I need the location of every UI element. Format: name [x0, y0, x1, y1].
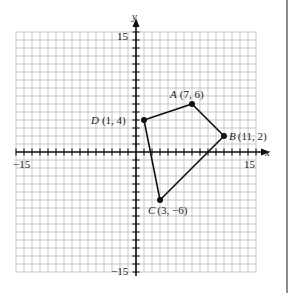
point-a-label: A(7, 6): [169, 88, 204, 101]
point-b-label: B(11, 2): [229, 130, 267, 143]
y-min-tick-label: −15: [111, 265, 129, 277]
point-d-dot: [141, 117, 147, 123]
coordinate-plane: y x 15 −15 −15 15 A(7, 6) B(11, 2) C(3, …: [0, 0, 290, 293]
point-b-dot: [221, 133, 227, 139]
point-d-label: D(1, 4): [90, 114, 126, 127]
x-max-tick-label: 15: [244, 158, 256, 170]
x-axis-label: x: [264, 146, 270, 158]
point-c-dot: [157, 197, 163, 203]
x-min-tick-label: −15: [13, 158, 31, 170]
point-c-label: C(3, −6): [148, 204, 188, 217]
y-max-tick-label: 15: [117, 30, 129, 42]
labels: y x 15 −15 −15 15 A(7, 6) B(11, 2) C(3, …: [13, 10, 270, 277]
y-axis-label: y: [131, 10, 137, 22]
point-a-dot: [189, 101, 195, 107]
